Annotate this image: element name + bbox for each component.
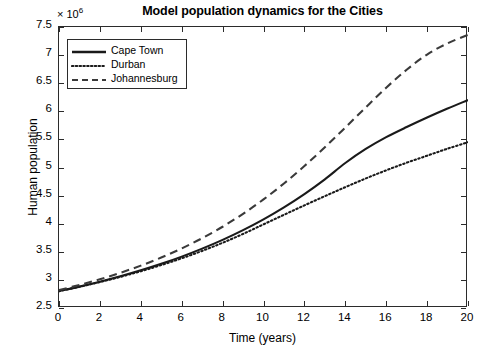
y-tick-right-6 (461, 111, 466, 112)
y-tick-2.5 (59, 308, 64, 309)
x-tick-top-0 (59, 27, 60, 32)
x-tick-label-20: 20 (447, 311, 484, 323)
x-tick-18 (427, 301, 428, 306)
x-tick-20 (468, 301, 469, 306)
y-tick-right-7.5 (461, 27, 466, 28)
y-tick-right-6.5 (461, 83, 466, 84)
x-tick-label-14: 14 (324, 311, 364, 323)
y-tick-right-5.5 (461, 139, 466, 140)
y-tick-5 (59, 168, 64, 169)
y-tick-right-4.5 (461, 196, 466, 197)
y-tick-right-2.5 (461, 308, 466, 309)
y-axis-multiplier: × 106 (57, 6, 83, 20)
y-tick-6.5 (59, 83, 64, 84)
y-tick-7 (59, 55, 64, 56)
y-tick-right-4 (461, 224, 466, 225)
x-tick-16 (386, 301, 387, 306)
y-tick-5.5 (59, 139, 64, 140)
legend-line-sample-dotted (71, 58, 107, 70)
x-tick-top-2 (100, 27, 101, 32)
legend-label: Cape Town (111, 44, 163, 56)
series-line-durban (59, 142, 468, 291)
y-tick-6 (59, 111, 64, 112)
x-tick-label-4: 4 (120, 311, 160, 323)
x-tick-top-10 (264, 27, 265, 32)
y-tick-3 (59, 280, 64, 281)
legend-item-cape-town[interactable]: Cape Town (71, 43, 182, 57)
x-tick-14 (345, 301, 346, 306)
y-tick-right-3.5 (461, 252, 466, 253)
x-tick-label-0: 0 (38, 311, 78, 323)
x-tick-label-18: 18 (406, 311, 446, 323)
y-tick-4 (59, 224, 64, 225)
x-tick-label-16: 16 (365, 311, 405, 323)
x-tick-top-16 (386, 27, 387, 32)
y-axis-title: Human population (26, 72, 40, 262)
x-tick-label-2: 2 (79, 311, 119, 323)
y-tick-4.5 (59, 196, 64, 197)
y-axis-multiplier-base: × 10 (57, 8, 79, 20)
x-tick-4 (141, 301, 142, 306)
x-tick-8 (223, 301, 224, 306)
chart-title: Model population dynamics for the Cities (58, 4, 467, 18)
x-tick-top-6 (182, 27, 183, 32)
x-tick-top-14 (345, 27, 346, 32)
x-tick-top-20 (468, 27, 469, 32)
figure-canvas: Model population dynamics for the Cities… (0, 0, 484, 359)
x-tick-2 (100, 301, 101, 306)
y-tick-label-7: 7 (14, 46, 52, 58)
x-tick-label-10: 10 (243, 311, 283, 323)
x-tick-12 (304, 301, 305, 306)
x-tick-10 (264, 301, 265, 306)
chart-legend: Cape TownDurbanJohannesburg (67, 39, 187, 89)
x-tick-top-12 (304, 27, 305, 32)
legend-line-sample-solid (71, 44, 107, 56)
y-tick-label-3: 3 (14, 271, 52, 283)
y-tick-right-5 (461, 168, 466, 169)
x-tick-label-8: 8 (202, 311, 242, 323)
legend-label: Durban (111, 58, 145, 70)
x-tick-top-8 (223, 27, 224, 32)
x-tick-top-18 (427, 27, 428, 32)
legend-label: Johannesburg (111, 72, 178, 84)
x-tick-top-4 (141, 27, 142, 32)
x-axis-title: Time (years) (58, 331, 467, 345)
x-tick-label-12: 12 (283, 311, 323, 323)
legend-item-johannesburg[interactable]: Johannesburg (71, 71, 182, 85)
y-tick-right-3 (461, 280, 466, 281)
y-tick-right-7 (461, 55, 466, 56)
x-tick-0 (59, 301, 60, 306)
y-tick-label-2.5: 2.5 (14, 299, 52, 311)
x-tick-label-6: 6 (161, 311, 201, 323)
y-tick-3.5 (59, 252, 64, 253)
y-axis-multiplier-exponent: 6 (79, 6, 83, 15)
y-tick-label-7.5: 7.5 (14, 18, 52, 30)
legend-line-sample-dashed (71, 72, 107, 84)
legend-item-durban[interactable]: Durban (71, 57, 182, 71)
series-line-cape-town (59, 100, 468, 291)
x-tick-6 (182, 301, 183, 306)
